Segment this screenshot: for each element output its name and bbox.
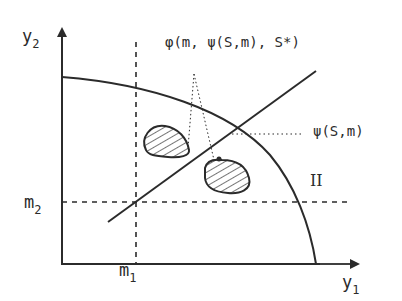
phi-annotation: φ(m, ψ(S,m), S*) xyxy=(165,34,300,50)
m2-label: m2 xyxy=(24,192,41,217)
region-marker-dot xyxy=(217,157,222,162)
y1-axis-label-sub: 1 xyxy=(352,283,359,297)
y2-axis-arrow-icon xyxy=(57,27,67,37)
y2-axis-label-main: y xyxy=(22,26,32,46)
y2-axis-label-sub: 2 xyxy=(32,37,39,51)
y2-axis-label: y2 xyxy=(22,26,39,51)
m2-label-main: m xyxy=(24,192,34,212)
m1-label-main: m xyxy=(119,260,129,280)
m1-label: m1 xyxy=(119,260,136,285)
hatched-region-upper-left xyxy=(144,126,189,157)
y2-axis xyxy=(57,27,67,264)
frontier-curve xyxy=(62,77,316,264)
hatched-region-lower-right xyxy=(205,160,249,193)
y1-axis-arrow-icon xyxy=(350,259,360,269)
m1-label-sub: 1 xyxy=(129,271,136,285)
psi-annotation: ψ(S,m) xyxy=(313,123,364,139)
y1-axis-label-main: y xyxy=(342,272,352,292)
rising-line xyxy=(108,71,316,222)
region-ii-label: II xyxy=(310,171,323,190)
m2-label-sub: 2 xyxy=(34,203,41,217)
y1-axis-label: y1 xyxy=(342,272,359,297)
